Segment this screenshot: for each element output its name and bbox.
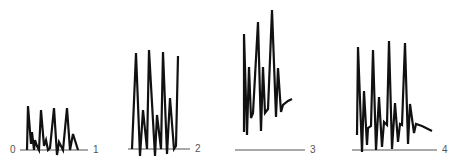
panel-1-end-label: 1 <box>93 145 99 155</box>
waveform-trace-4 <box>357 41 432 152</box>
waveform-trace-3 <box>244 10 292 135</box>
panel-2-end-label: 2 <box>195 144 201 154</box>
waveform-trace-2 <box>132 50 178 156</box>
panel-3-end-label: 3 <box>310 145 316 155</box>
trace-panel-1 <box>20 106 88 155</box>
waveform-canvas <box>0 0 456 165</box>
waveform-figure: 0 1 2 3 4 <box>0 0 456 165</box>
waveform-trace-1 <box>27 106 78 155</box>
panel-4-end-label: 4 <box>442 145 448 155</box>
trace-panel-4 <box>352 41 437 152</box>
panel-1-start-label: 0 <box>10 145 16 155</box>
trace-panel-2 <box>128 50 190 156</box>
trace-panel-3 <box>235 10 305 150</box>
